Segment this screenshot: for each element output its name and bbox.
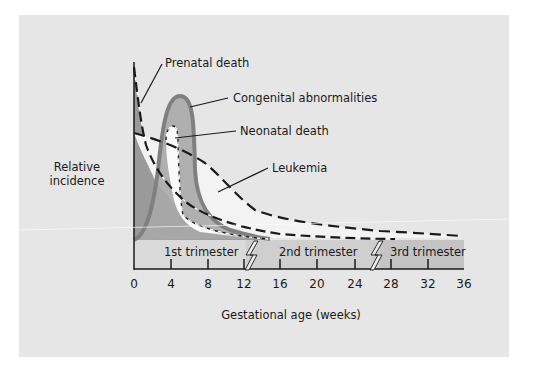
- neonatal-death-label: Neonatal death: [240, 124, 329, 138]
- x-tick-labels: 0 4 8 12 16 20 24 28 32 36: [130, 277, 471, 291]
- x-axis-label: Gestational age (weeks): [221, 308, 361, 322]
- y-axis-label: Relative: [54, 160, 100, 174]
- svg-text:20: 20: [309, 277, 324, 291]
- svg-text:0: 0: [130, 277, 138, 291]
- trimester-2-label: 2nd trimester: [279, 245, 358, 259]
- svg-text:24: 24: [347, 277, 362, 291]
- svg-text:16: 16: [272, 277, 287, 291]
- leukemia-label: Leukemia: [272, 161, 327, 175]
- y-axis-label: incidence: [49, 174, 104, 188]
- svg-text:8: 8: [204, 277, 212, 291]
- svg-text:32: 32: [420, 277, 435, 291]
- congenital-abnormalities-label: Congenital abnormalities: [233, 91, 377, 105]
- svg-text:12: 12: [236, 277, 251, 291]
- svg-text:36: 36: [456, 277, 471, 291]
- svg-text:28: 28: [383, 277, 398, 291]
- trimester-1-label: 1st trimester: [164, 245, 239, 259]
- prenatal-death-label: Prenatal death: [165, 56, 249, 70]
- chart-svg: 0 4 8 12 16 20 24 28 32 36 1st trimester…: [0, 0, 543, 366]
- trimester-3-label: 3rd trimester: [390, 245, 466, 259]
- svg-text:4: 4: [167, 277, 175, 291]
